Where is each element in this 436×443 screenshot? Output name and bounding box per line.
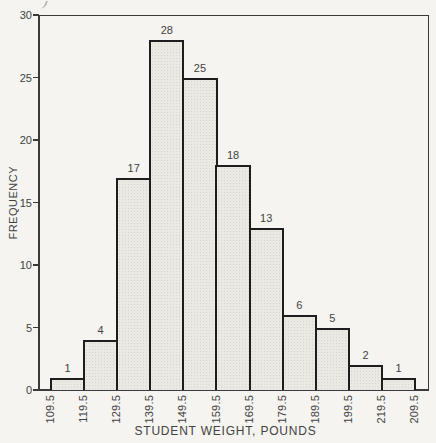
y-tick-label: 30	[6, 8, 32, 22]
histogram-bar	[50, 378, 85, 391]
bar-value-label: 1	[381, 362, 416, 375]
bar-value-label: 1	[50, 362, 85, 375]
x-tick-label: 119.5	[77, 395, 90, 423]
y-tick-label: 20	[6, 133, 32, 147]
y-tick-label: 15	[6, 196, 32, 210]
x-tick-label: 189.5	[309, 395, 322, 424]
bar-value-label: 28	[149, 24, 184, 37]
bar-value-label: 2	[348, 349, 383, 362]
y-tick-label: 5	[6, 321, 32, 335]
x-tick-label: 129.5	[110, 395, 123, 424]
histogram-bar	[215, 165, 250, 390]
histogram-figure: FREQUENCY STUDENT WEIGHT, POUNDS 1417282…	[0, 0, 436, 443]
y-axis-tick	[33, 202, 39, 204]
x-tick-label: 159.5	[210, 395, 223, 424]
histogram-bar	[83, 340, 118, 390]
y-axis-tick	[33, 264, 39, 266]
x-tick-label: 169.5	[243, 395, 256, 424]
bar-value-label: 6	[282, 299, 317, 312]
bar-value-label: 4	[83, 324, 118, 337]
x-tick-label: 149.5	[176, 395, 189, 424]
scan-artifact-mark	[38, 0, 48, 10]
bar-value-label: 5	[315, 312, 350, 325]
y-axis-tick	[33, 389, 39, 391]
y-axis-tick	[33, 139, 39, 141]
histogram-bar	[348, 365, 383, 390]
x-tick-label: 139.5	[143, 395, 156, 424]
y-tick-label: 0	[6, 383, 32, 397]
x-tick-label: 109.5	[44, 395, 57, 424]
x-axis-title: STUDENT WEIGHT, POUNDS	[30, 424, 421, 438]
y-axis-tick	[33, 327, 39, 329]
y-tick-label: 25	[6, 71, 32, 85]
x-tick-label: 179.5	[276, 395, 289, 424]
x-tick-label: 209.5	[408, 395, 421, 424]
histogram-bar	[381, 378, 416, 391]
histogram-bar	[282, 315, 317, 390]
bar-value-label: 18	[215, 149, 250, 162]
bar-value-label: 13	[249, 212, 284, 225]
x-tick-label: 219.5	[375, 395, 388, 424]
y-axis-tick	[33, 77, 39, 79]
histogram-bar	[149, 40, 184, 390]
histogram-bar	[249, 228, 284, 391]
bar-value-label: 25	[182, 62, 217, 75]
histogram-bar	[315, 328, 350, 391]
histogram-bar	[116, 178, 151, 391]
bar-value-label: 17	[116, 162, 151, 175]
histogram-bar	[182, 78, 217, 391]
x-tick-label: 199.5	[342, 395, 355, 424]
y-tick-label: 10	[6, 258, 32, 272]
y-axis-tick	[33, 14, 39, 16]
